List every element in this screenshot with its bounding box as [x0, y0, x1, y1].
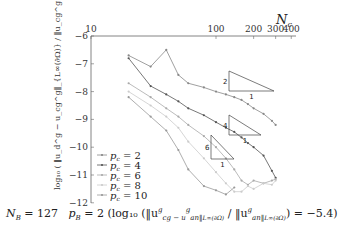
x-tick-label: 100: [207, 24, 224, 34]
data-point: [240, 191, 242, 193]
data-point: [271, 179, 273, 181]
data-point: [233, 191, 235, 193]
data-point: [275, 124, 277, 126]
data-point: [215, 189, 217, 191]
data-point: [262, 182, 264, 184]
data-point: [233, 96, 235, 98]
y-axis-label: log₁₀ ( ‖u_d^g − u_cg^g‖_{L∞(∂Ω)} / ‖u_c…: [53, 0, 62, 190]
data-point: [271, 170, 273, 172]
data-point: [128, 54, 130, 56]
data-point: [150, 104, 152, 106]
data-point: [203, 135, 205, 137]
legend-marker: [101, 154, 103, 156]
data-point: [253, 146, 255, 148]
y-tick-label: −8: [75, 87, 89, 97]
y-tick-label: −9: [75, 114, 89, 124]
data-point: [262, 113, 264, 115]
slope-triangle: [229, 71, 274, 91]
legend-marker: [101, 184, 103, 186]
data-point: [203, 185, 205, 187]
y-tick-label: −11: [69, 170, 88, 180]
data-point: [187, 168, 189, 170]
data-point: [177, 74, 179, 76]
data-point: [203, 114, 205, 116]
data-point: [165, 129, 167, 131]
data-point: [262, 154, 264, 156]
series-line-p10: [129, 97, 235, 194]
data-point: [165, 116, 167, 118]
x-tick-label: 200: [245, 24, 262, 34]
slope-triangles: 214161: [205, 71, 274, 169]
data-point: [215, 171, 217, 173]
figure-caption: NB = 127 pB = 2 (log₁₀ (‖ugcg − ugan‖L∞(…: [6, 206, 346, 222]
data-point: [215, 146, 217, 148]
data-point: [233, 131, 235, 133]
data-point: [150, 65, 152, 67]
legend-marker: [101, 194, 103, 196]
data-point: [150, 85, 152, 87]
data-point: [165, 107, 167, 109]
y-tick-label: −6: [75, 31, 89, 41]
data-point: [150, 116, 152, 118]
legend: pc = 2pc = 4pc = 6pc = 8pc = 10: [97, 150, 147, 202]
data-point: [253, 179, 255, 181]
data-point: [275, 179, 277, 181]
x-ticks: 10100200300400: [85, 24, 300, 39]
y-tick-label: −7: [75, 59, 89, 69]
data-point: [225, 182, 227, 184]
data-point: [187, 124, 189, 126]
data-point: [271, 120, 273, 122]
data-point: [165, 49, 167, 51]
data-point: [187, 107, 189, 109]
data-point: [271, 184, 273, 186]
legend-marker: [101, 174, 103, 176]
slope-run-label: 1: [249, 93, 253, 101]
data-point: [177, 127, 179, 129]
data-point: [240, 179, 242, 181]
data-point: [233, 168, 235, 170]
series-lines: [128, 49, 277, 196]
data-point: [253, 188, 255, 190]
legend-entry: pc = 10: [110, 190, 147, 202]
y-tick-label: −10: [69, 142, 88, 152]
slope-run-label: 1: [220, 161, 224, 169]
data-point: [177, 149, 179, 151]
data-point: [240, 99, 242, 101]
data-point: [150, 96, 152, 98]
x-axis-label: Nc: [275, 12, 292, 29]
slope-rise-label: 6: [205, 144, 210, 152]
data-point: [203, 86, 205, 88]
y-tick-label: −12: [69, 198, 88, 206]
data-point: [225, 93, 227, 95]
slope-triangle: [211, 135, 234, 159]
data-point: [247, 103, 249, 105]
data-point: [253, 107, 255, 109]
data-point: [128, 96, 130, 98]
data-point: [203, 157, 205, 159]
data-point: [187, 82, 189, 84]
series-line-p8: [129, 92, 276, 192]
y-ticks: −6−7−8−9−10−11−12: [69, 31, 94, 206]
series-line-p2: [129, 50, 276, 125]
data-point: [128, 82, 130, 84]
slope-rise-label: 4: [223, 122, 228, 130]
data-point: [177, 100, 179, 102]
data-point: [233, 186, 235, 188]
legend-marker: [101, 164, 103, 166]
data-point: [215, 121, 217, 123]
slope-run-label: 1: [243, 137, 247, 145]
data-point: [177, 116, 179, 118]
data-point: [187, 141, 189, 143]
data-point: [165, 93, 167, 95]
data-point: [247, 185, 249, 187]
slope-rise-label: 2: [223, 78, 227, 86]
series-line-p4: [129, 58, 276, 178]
data-point: [225, 193, 227, 195]
data-point: [128, 91, 130, 93]
convergence-chart: 10100200300400 −6−7−8−9−10−11−12 Nc log₁…: [0, 0, 346, 206]
data-point: [128, 57, 130, 59]
data-point: [215, 91, 217, 93]
